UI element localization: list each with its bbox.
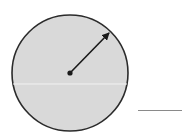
center-point xyxy=(67,70,72,75)
circle-diagram xyxy=(0,0,187,134)
answer-blank-line[interactable] xyxy=(138,110,182,111)
diagram-canvas xyxy=(0,0,187,134)
